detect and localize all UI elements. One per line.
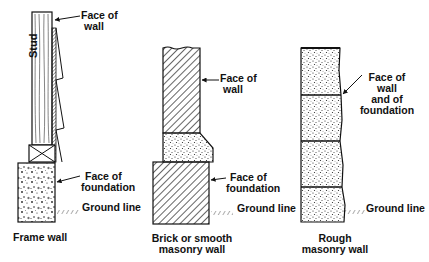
rough-face-of-wall-and-foundation-label: Face of wall and of foundation bbox=[356, 72, 418, 116]
brick-wall bbox=[163, 47, 200, 133]
frame-ground-line-label: Ground line bbox=[82, 202, 141, 213]
frame-foundation bbox=[18, 163, 55, 222]
ground-hatch bbox=[57, 210, 79, 214]
ground-hatch bbox=[211, 211, 233, 215]
ground-hatch bbox=[345, 210, 365, 214]
frame-wall-caption: Frame wall bbox=[13, 232, 67, 243]
rough-masonry-wall bbox=[301, 48, 345, 222]
sheathing bbox=[52, 28, 56, 162]
rough-masonry-wall-caption: Rough masonry wall bbox=[295, 233, 375, 255]
siding bbox=[56, 28, 64, 162]
brick-foundation bbox=[153, 162, 209, 224]
brick-face-of-foundation-label: Face of foundation bbox=[226, 172, 280, 194]
brick-wall-caption: Brick or smooth masonry wall bbox=[147, 233, 237, 255]
brick-sill bbox=[163, 133, 213, 162]
wall-sections-diagram bbox=[0, 0, 429, 262]
stud-label: Stud bbox=[28, 34, 39, 58]
frame-face-of-wall-label: Face of wall bbox=[81, 10, 118, 32]
rough-ground-line-label: Ground line bbox=[366, 203, 425, 214]
brick-face-of-wall-label: Face of wall bbox=[220, 73, 257, 95]
frame-face-of-foundation-label: Face of foundation bbox=[81, 171, 135, 193]
brick-ground-line-label: Ground line bbox=[237, 203, 296, 214]
